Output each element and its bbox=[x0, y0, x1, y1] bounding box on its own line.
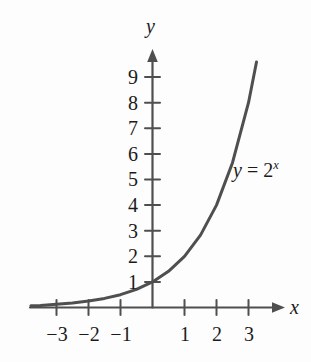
y-tick-label-4: 4 bbox=[112, 195, 138, 215]
y-tick-label-3: 3 bbox=[112, 221, 138, 241]
curve-equation-lhs: y bbox=[233, 159, 242, 181]
exponential-curve bbox=[31, 62, 257, 306]
y-tick-label-2: 2 bbox=[112, 246, 138, 266]
y-axis-arrow-icon bbox=[147, 49, 158, 62]
x-tick-label--1: −1 bbox=[110, 324, 132, 344]
graph-canvas bbox=[0, 0, 311, 362]
x-axis-arrow-icon bbox=[272, 302, 285, 313]
x-tick-label--2: −2 bbox=[78, 324, 100, 344]
curve-equation-equals: = bbox=[247, 159, 258, 181]
x-tick-label-3: 3 bbox=[238, 324, 260, 344]
function-graph-figure: y x 9 8 7 6 5 4 3 2 1 −3 −2 −1 1 2 3 y =… bbox=[0, 0, 311, 362]
y-tick-label-6: 6 bbox=[112, 144, 138, 164]
x-tick-label-1: 1 bbox=[174, 324, 196, 344]
curve-equation-label: y = 2x bbox=[233, 160, 279, 180]
x-axis-label: x bbox=[290, 297, 299, 317]
curve-equation-base: 2 bbox=[263, 159, 273, 181]
y-tick-label-7: 7 bbox=[112, 118, 138, 138]
y-tick-label-5: 5 bbox=[112, 169, 138, 189]
x-tick-label--3: −3 bbox=[46, 324, 68, 344]
y-tick-label-1: 1 bbox=[112, 272, 138, 292]
y-tick-label-8: 8 bbox=[112, 93, 138, 113]
y-axis-label: y bbox=[146, 16, 155, 36]
x-tick-label-2: 2 bbox=[206, 324, 228, 344]
curve-equation-exponent: x bbox=[273, 158, 279, 172]
y-tick-label-9: 9 bbox=[112, 67, 138, 87]
